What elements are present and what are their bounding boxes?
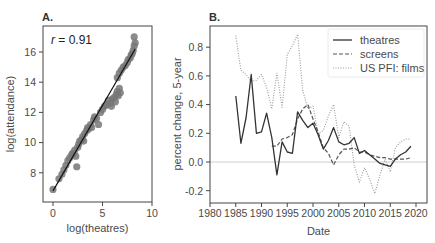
scatter-point xyxy=(117,89,124,96)
y-axis-ticks: -0.20.00.20.40.60.8 xyxy=(185,41,210,197)
scatter-points xyxy=(49,33,138,193)
y-tick-label: 0.0 xyxy=(188,156,203,168)
x-tick-label: 2015 xyxy=(379,207,403,219)
x-tick-label: 2020 xyxy=(404,207,428,219)
scatter-point xyxy=(73,163,80,170)
x-tick-label: 5 xyxy=(100,207,106,219)
scatter-point xyxy=(131,33,138,40)
x-tick-label: 10 xyxy=(146,207,158,219)
panel-b-line: B. 198019851990199520002005201020152020 … xyxy=(171,11,428,237)
y-axis-ticks: 810121416 xyxy=(24,46,43,179)
y-tick-label: 0.4 xyxy=(188,98,203,110)
y-tick-label: -0.2 xyxy=(185,185,203,197)
fit-line xyxy=(53,49,135,191)
series-screens xyxy=(272,105,411,165)
x-tick-label: 2005 xyxy=(327,207,351,219)
x-axis-ticks: 0510 xyxy=(50,202,158,219)
x-axis-ticks: 198019851990199520002005201020152020 xyxy=(198,203,428,219)
legend: theatres screens US PFI: films xyxy=(328,29,425,77)
y-tick-label: 0.6 xyxy=(188,70,203,82)
legend-item-us-pfi-films: US PFI: films xyxy=(360,62,425,74)
y-tick-label: 8 xyxy=(30,167,36,179)
y-axis-label: percent change, 5-year xyxy=(171,57,183,170)
y-tick-label: 10 xyxy=(24,136,36,148)
scatter-point xyxy=(132,39,139,46)
x-tick-label: 1980 xyxy=(198,207,222,219)
legend-item-screens: screens xyxy=(360,48,399,60)
panel-a-title: A. xyxy=(42,11,53,23)
y-tick-label: 14 xyxy=(24,76,36,88)
scatter-point xyxy=(95,121,102,128)
x-tick-label: 2010 xyxy=(353,207,377,219)
y-tick-label: 0.2 xyxy=(188,127,203,139)
x-tick-label: 1985 xyxy=(224,207,248,219)
x-tick-label: 1995 xyxy=(276,207,300,219)
x-tick-label: 0 xyxy=(50,207,56,219)
x-tick-label: 1990 xyxy=(250,207,274,219)
y-tick-label: 16 xyxy=(24,46,36,58)
x-tick-label: 2000 xyxy=(301,207,325,219)
legend-item-theatres: theatres xyxy=(360,34,400,46)
panel-b-title: B. xyxy=(209,11,220,23)
x-axis-label: Date xyxy=(307,225,330,237)
y-tick-label: 0.8 xyxy=(188,41,203,53)
y-axis-label: log(attendance) xyxy=(4,76,16,152)
x-axis-label: log(theatres) xyxy=(67,222,129,234)
figure: A. r = 0.91 0510 810121416 log(theatres)… xyxy=(0,0,435,243)
series-theatres xyxy=(236,75,411,175)
y-tick-label: 12 xyxy=(24,106,36,118)
correlation-annotation: r = 0.91 xyxy=(51,33,92,47)
panel-a-scatter: A. r = 0.91 0510 810121416 log(theatres)… xyxy=(4,11,158,234)
